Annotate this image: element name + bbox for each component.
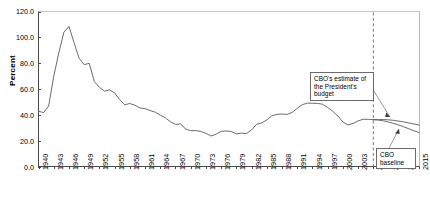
president-budget-callout: CBO's estimate of the President's budget bbox=[310, 72, 374, 101]
chart-root: Percent 0.020.040.060.080.0100.0120.0 19… bbox=[0, 0, 430, 215]
line-cbo-baseline bbox=[373, 120, 419, 133]
data-series-layer bbox=[0, 0, 430, 215]
leader-lines bbox=[372, 88, 400, 150]
cbo-baseline-callout: CBO baseline bbox=[376, 148, 416, 169]
